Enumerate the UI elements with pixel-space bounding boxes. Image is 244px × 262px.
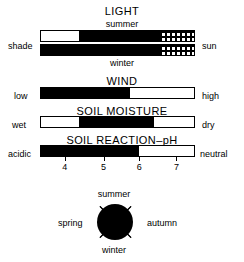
soil-moisture-segment-white bbox=[154, 117, 194, 127]
wind-heading: WIND bbox=[0, 76, 244, 87]
ph-tick-mark bbox=[104, 157, 105, 161]
ph-tick-label: 6 bbox=[129, 163, 149, 172]
soil-reaction-right-label: neutral bbox=[200, 150, 228, 159]
ph-tick-labels: 4567 bbox=[40, 163, 195, 175]
ph-tick-mark bbox=[65, 157, 66, 161]
soil-moisture-segment-white bbox=[41, 117, 79, 127]
light-right-label: sun bbox=[202, 42, 217, 51]
light-heading: LIGHT bbox=[0, 6, 244, 17]
light-winter-caption: winter bbox=[0, 59, 244, 68]
light-summer-segment-dotted bbox=[160, 31, 194, 41]
light-summer-caption: summer bbox=[0, 20, 244, 29]
season-circle bbox=[93, 200, 137, 244]
soil-reaction-bar bbox=[40, 145, 195, 157]
soil-moisture-bar bbox=[40, 116, 195, 128]
wind-left-label: low bbox=[14, 92, 28, 101]
season-circle-disc bbox=[97, 204, 133, 240]
ph-tick-label: 5 bbox=[94, 163, 114, 172]
soil-moisture-segment-black bbox=[79, 117, 154, 127]
figure-canvas: LIGHT summer shade sun winter WIND low h… bbox=[0, 0, 244, 262]
soil-reaction-segment-black bbox=[41, 146, 139, 156]
soil-moisture-right-label: dry bbox=[202, 121, 215, 130]
wind-bar bbox=[40, 87, 195, 99]
light-left-label: shade bbox=[8, 42, 33, 51]
soil-reaction-left-label: acidic bbox=[8, 150, 31, 159]
ph-tick-label: 7 bbox=[166, 163, 186, 172]
season-left-label: spring bbox=[58, 219, 83, 228]
season-right-label: autumn bbox=[147, 219, 177, 228]
soil-moisture-left-label: wet bbox=[12, 121, 26, 130]
soil-reaction-segment-white bbox=[139, 146, 194, 156]
wind-right-label: high bbox=[202, 92, 219, 101]
light-winter-segment-dotted bbox=[160, 45, 194, 55]
light-summer-bar bbox=[40, 30, 195, 42]
light-summer-segment-black bbox=[79, 31, 160, 41]
season-top-label: summer bbox=[64, 190, 164, 199]
light-winter-bar bbox=[40, 44, 195, 56]
ph-tick-mark bbox=[139, 157, 140, 161]
ph-tick-label: 4 bbox=[55, 163, 75, 172]
ph-tick-mark bbox=[176, 157, 177, 161]
light-summer-segment-white bbox=[41, 31, 79, 41]
light-winter-segment-black bbox=[41, 45, 160, 55]
wind-segment-black bbox=[41, 88, 130, 98]
wind-segment-white bbox=[130, 88, 194, 98]
season-bottom-label: winter bbox=[64, 246, 164, 255]
